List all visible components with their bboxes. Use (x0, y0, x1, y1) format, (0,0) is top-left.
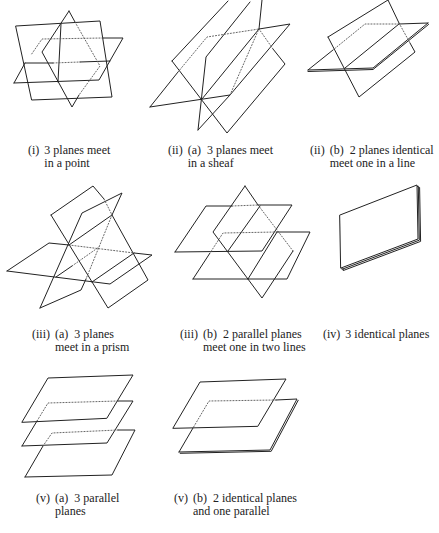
caption-line-2: meet one in a line (330, 157, 434, 170)
caption-label: (ii) (168, 144, 183, 157)
figure-v-a-three-parallel-planes (22, 375, 135, 477)
caption-label: (v) (174, 492, 188, 505)
caption-line-2: in a sheaf (188, 157, 273, 170)
figure-ii-b-identical-planes-line (308, 0, 429, 97)
caption-label: (i) (28, 144, 39, 157)
caption-sub-label: (a) (55, 328, 68, 341)
caption-sub-label: (a) (188, 144, 201, 157)
caption-i: (i) 3 planes meet in a point (28, 144, 110, 169)
figure-iii-a-three-planes-prism (7, 186, 152, 308)
figure-iii-b-parallel-planes-two-lines (175, 186, 310, 298)
caption-line-2: meet one in two lines (203, 341, 306, 354)
caption-line-2: in a point (44, 157, 110, 170)
caption-v-a: (v) (a) 3 parallel planes (36, 492, 119, 517)
figure-i-three-planes-point (14, 11, 123, 107)
caption-iv: (iv) 3 identical planes (323, 328, 429, 341)
caption-line-1: 2 planes identical (350, 144, 434, 157)
caption-sub-label: (b) (203, 328, 217, 341)
caption-label: (ii) (310, 144, 325, 157)
caption-label: (iii) (32, 328, 50, 341)
figure-iv-three-identical-planes (340, 185, 421, 270)
caption-line-2: planes (55, 505, 119, 518)
caption-line-1: 2 identical planes (213, 492, 297, 505)
caption-line-1: 3 identical planes (345, 328, 429, 341)
caption-label: (v) (36, 492, 50, 505)
caption-line-1: 3 planes meet (44, 144, 110, 157)
caption-ii-b: (ii) (b) 2 planes identical meet one in … (310, 144, 434, 169)
caption-sub-label: (b) (193, 492, 207, 505)
caption-sub-label: (a) (55, 492, 68, 505)
caption-iii-a: (iii) (a) 3 planes meet in a prism (32, 328, 129, 353)
figure-v-b-identical-and-parallel (173, 379, 298, 453)
caption-line-1: 3 planes meet (207, 144, 273, 157)
figure-ii-a-three-planes-sheaf (150, 0, 290, 133)
planes-figures (0, 0, 439, 533)
planes-diagram-page: (i) 3 planes meet in a point (ii) (a) 3 … (0, 0, 439, 533)
caption-iii-b: (iii) (b) 2 parallel planes meet one in … (180, 328, 306, 353)
caption-line-1: 3 planes (74, 328, 114, 341)
caption-ii-a: (ii) (a) 3 planes meet in a sheaf (168, 144, 273, 169)
caption-line-2: and one parallel (193, 505, 297, 518)
caption-line-1: 2 parallel planes (223, 328, 302, 341)
caption-sub-label: (b) (330, 144, 344, 157)
caption-label: (iv) (323, 328, 340, 341)
caption-v-b: (v) (b) 2 identical planes and one paral… (174, 492, 297, 517)
caption-line-2: meet in a prism (55, 341, 129, 354)
caption-line-1: 3 parallel (74, 492, 119, 505)
caption-label: (iii) (180, 328, 198, 341)
